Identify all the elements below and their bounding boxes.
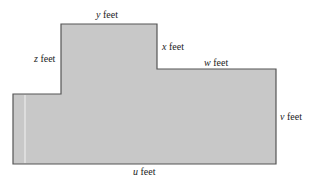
label-top-y: y feet [96, 9, 118, 20]
label-bottom-u: u feet [133, 166, 156, 177]
floor-plan-diagram [0, 0, 320, 186]
label-left-z: z feet [34, 53, 55, 64]
floor-plan-shape [13, 24, 276, 164]
label-right-v: v feet [280, 111, 302, 122]
label-step-w: w feet [204, 57, 228, 68]
label-step-x: x feet [162, 41, 184, 52]
